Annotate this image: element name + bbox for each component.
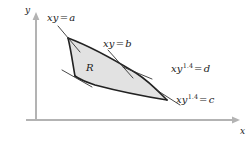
diagram-svg: [0, 0, 252, 145]
y-axis-arrowhead: [33, 12, 40, 20]
curve-label-xy14-equals-d: xy1.4=d: [171, 63, 210, 74]
curve-label-xy-equals-b: xy=b: [103, 38, 132, 49]
x-axis-label: x: [240, 126, 245, 136]
figure-canvas: y x R xy=a xy=b xy1.4=d xy1.4=c: [0, 0, 252, 145]
curve-label-operator: =: [59, 12, 70, 23]
curve-label-rhs: a: [69, 12, 75, 23]
curve-label-xy14-equals-c: xy1.4=c: [176, 94, 214, 105]
curve-label-rhs: d: [204, 63, 211, 74]
curve-label-operator: =: [198, 94, 209, 105]
curve-label-operator: =: [193, 63, 204, 74]
curve-label-xy-equals-a: xy=a: [47, 12, 75, 23]
curve-label-exponent: 1.4: [188, 93, 198, 101]
curve-label-exponent: 1.4: [183, 62, 193, 70]
curve-label-rhs: c: [209, 94, 215, 105]
region-label-R: R: [86, 62, 94, 73]
curve-label-lhs: xy: [176, 94, 188, 105]
curve-label-lhs: xy: [103, 38, 115, 49]
leader-line-xy-a: [58, 26, 80, 52]
curve-label-lhs: xy: [171, 63, 183, 74]
curve-label-lhs: xy: [47, 12, 59, 23]
y-axis-label: y: [25, 5, 30, 15]
curve-label-operator: =: [115, 38, 126, 49]
curve-label-rhs: b: [125, 38, 132, 49]
x-axis-arrowhead: [232, 117, 240, 124]
